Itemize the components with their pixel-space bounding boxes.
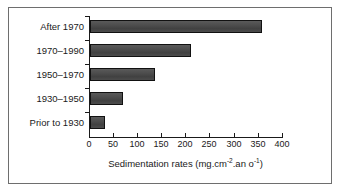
bar-chart-plot-area: After 1970 1970–1990 1950–1970 1930–1950… (0, 0, 342, 193)
x-axis-tick (161, 133, 162, 138)
x-axis-tick (113, 133, 114, 138)
bar-1950-1970 (90, 68, 155, 81)
x-axis-title-tail: ) (260, 158, 263, 169)
y-axis-tick (85, 16, 90, 17)
chart-figure: After 1970 1970–1990 1950–1970 1930–1950… (0, 0, 342, 193)
x-axis-tick (185, 133, 186, 138)
x-axis-tick (137, 133, 138, 138)
bar-prior-to-1930 (90, 116, 105, 129)
x-axis-tick (89, 133, 90, 138)
x-axis-title-mid: .an o (233, 158, 254, 169)
category-label-prior-to-1930: Prior to 1930 (30, 117, 84, 128)
x-axis-tick (282, 133, 283, 138)
y-axis-tick (85, 40, 90, 41)
bar-1930-1950 (90, 92, 123, 105)
category-label-1930-1950: 1930–1950 (36, 93, 84, 104)
bar-after-1970 (90, 20, 262, 33)
category-label-1970-1990: 1970–1990 (36, 45, 84, 56)
y-axis-tick (85, 88, 90, 89)
x-axis-title: Sedimentation rates (mg.cm-2.an o-1) (89, 158, 282, 169)
x-axis-title-lead: Sedimentation rates (mg.cm (108, 158, 227, 169)
category-label-1950-1970: 1950–1970 (36, 69, 84, 80)
category-label-after-1970: After 1970 (40, 21, 84, 32)
x-axis-tick (234, 133, 235, 138)
x-axis-tick (209, 133, 210, 138)
bar-1970-1990 (90, 44, 191, 57)
x-tick-label-400: 400 (265, 139, 299, 150)
y-axis-tick (85, 64, 90, 65)
y-axis-tick (85, 112, 90, 113)
x-axis-tick (258, 133, 259, 138)
